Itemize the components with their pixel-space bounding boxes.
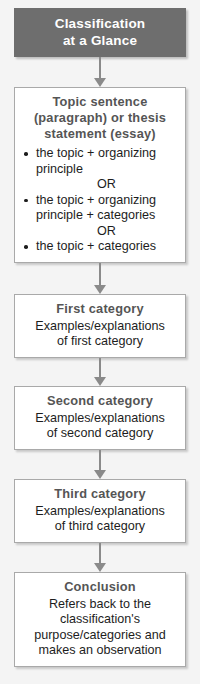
- node-conclusion-body: Refers back to the classification's purp…: [20, 597, 180, 659]
- bullet-dot-icon: [24, 245, 28, 249]
- arrow-down-4: [93, 450, 107, 479]
- bullet-dot-icon: [24, 199, 28, 203]
- arrow-shaft: [99, 57, 101, 78]
- node-second-category-body: Examples/explanations of second category: [20, 411, 180, 442]
- arrow-head-icon: [94, 78, 106, 87]
- title-line-1: Topic sentence: [19, 94, 181, 110]
- node-first-category: First category Examples/explanations of …: [14, 294, 186, 358]
- title-line-3: statement (essay): [19, 126, 181, 142]
- node-first-category-title: First category: [20, 301, 180, 317]
- node-third-category-title: Third category: [20, 486, 180, 502]
- body-line-1: Examples/explanations: [20, 504, 180, 520]
- node-topic-sentence: Topic sentence (paragraph) or thesis sta…: [14, 87, 186, 263]
- body-line-2: classification's: [20, 612, 180, 628]
- arrow-down-1: [93, 57, 107, 87]
- node-third-category-body: Examples/explanations of third category: [20, 504, 180, 535]
- body-line-1: Examples/explanations: [20, 319, 180, 335]
- arrow-head-icon: [94, 470, 106, 479]
- body-line-2: of first category: [20, 334, 180, 350]
- node-second-category-title: Second category: [20, 393, 180, 409]
- body-line-3: purpose/categories and: [20, 628, 180, 644]
- body-line-2: of second category: [20, 426, 180, 442]
- classification-flowchart: Classification at a Glance Topic sentenc…: [0, 0, 200, 684]
- list-item: the topic + categories: [19, 239, 181, 255]
- title-line-1: Conclusion: [20, 579, 180, 595]
- body-line-2: of third category: [20, 519, 180, 535]
- header-line-2: at a Glance: [18, 32, 182, 49]
- header-line-1: Classification: [18, 15, 182, 32]
- body-line-4: makes an observation: [20, 643, 180, 659]
- title-line-1: Second category: [20, 393, 180, 409]
- arrow-down-2: [93, 263, 107, 294]
- bullet-2-line-1: the topic + organizing: [36, 193, 181, 209]
- bullet-1-line-2: principle: [36, 162, 181, 178]
- bullet-dot-icon: [24, 152, 28, 156]
- body-line-1: Examples/explanations: [20, 411, 180, 427]
- flowchart-header: Classification at a Glance: [14, 8, 186, 57]
- arrow-head-icon: [94, 377, 106, 386]
- arrow-down-5: [93, 543, 107, 572]
- bullet-3-line-1: the topic + categories: [36, 239, 181, 255]
- node-first-category-body: Examples/explanations of first category: [20, 319, 180, 350]
- node-second-category: Second category Examples/explanations of…: [14, 386, 186, 450]
- title-line-1: First category: [20, 301, 180, 317]
- title-line-2: (paragraph) or thesis: [19, 110, 181, 126]
- separator-or-1: OR: [19, 177, 181, 193]
- bullet-2-line-2: principle + categories: [36, 208, 181, 224]
- list-item: the topic + organizing principle: [19, 146, 181, 177]
- bullet-1-line-1: the topic + organizing: [36, 146, 181, 162]
- separator-or-2: OR: [19, 224, 181, 240]
- body-line-1: Refers back to the: [20, 597, 180, 613]
- arrow-shaft: [99, 450, 101, 470]
- node-conclusion-title: Conclusion: [20, 579, 180, 595]
- arrow-head-icon: [94, 563, 106, 572]
- node-conclusion: Conclusion Refers back to the classifica…: [14, 572, 186, 667]
- list-item: the topic + organizing principle + categ…: [19, 193, 181, 224]
- node-third-category: Third category Examples/explanations of …: [14, 479, 186, 543]
- title-line-1: Third category: [20, 486, 180, 502]
- flow-container: Classification at a Glance Topic sentenc…: [0, 0, 200, 667]
- topic-sentence-bullet-list: the topic + organizing principle OR the …: [19, 146, 181, 255]
- arrow-down-3: [93, 358, 107, 386]
- node-topic-sentence-title: Topic sentence (paragraph) or thesis sta…: [19, 94, 181, 142]
- arrow-shaft: [99, 263, 101, 285]
- arrow-shaft: [99, 358, 101, 377]
- arrow-shaft: [99, 543, 101, 563]
- arrow-head-icon: [94, 285, 106, 294]
